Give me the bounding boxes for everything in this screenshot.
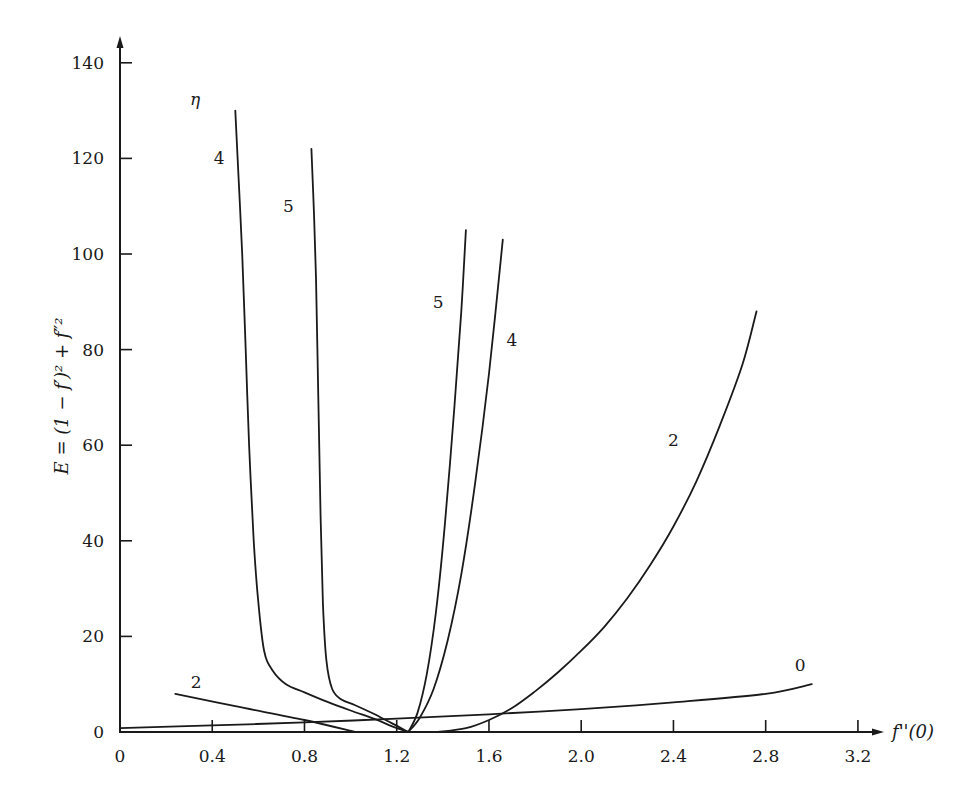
x-tick-label: 1.6 <box>475 746 502 766</box>
y-tick-label: 60 <box>82 435 104 455</box>
y-tick-label: 20 <box>82 626 104 646</box>
curves <box>120 111 812 732</box>
curve-eta-0 <box>120 684 812 728</box>
x-axis-title-text: f''(0) <box>890 721 934 742</box>
x-ticks: 00.40.81.21.62.02.42.83.2 <box>115 720 872 766</box>
y-axis-title: E = (1 − f′)² + f″² <box>51 318 72 476</box>
x-tick-label: 2.0 <box>568 746 595 766</box>
curve-labels: 0224554 <box>191 148 806 691</box>
axes <box>117 36 885 736</box>
curve-label-eta-2: 2 <box>668 430 679 450</box>
curve-label-eta-5: 5 <box>433 292 444 312</box>
x-tick-label: 0.8 <box>291 746 318 766</box>
y-tick-label: 0 <box>93 722 104 742</box>
x-tick-label: 0.4 <box>199 746 226 766</box>
y-ticks: 020406080100120140 <box>72 53 132 742</box>
curve-eta-5 <box>311 149 408 732</box>
curve-label-eta-4: 4 <box>214 148 225 168</box>
curve-label-eta-2: 2 <box>191 672 202 692</box>
y-tick-label: 140 <box>72 53 104 73</box>
x-tick-label: 1.2 <box>383 746 410 766</box>
x-tick-label: 3.2 <box>844 746 871 766</box>
x-tick-label: 2.4 <box>660 746 687 766</box>
curve-eta-4 <box>235 111 408 732</box>
curve-label-eta-5: 5 <box>283 196 294 216</box>
x-tick-label: 2.8 <box>752 746 779 766</box>
y-tick-label: 120 <box>72 148 104 168</box>
y-tick-label: 80 <box>82 340 104 360</box>
y-tick-label: 100 <box>72 244 104 264</box>
x-axis-arrow-icon <box>872 729 884 736</box>
curve-label-eta-4: 4 <box>507 330 518 350</box>
curve-eta-4 <box>408 240 503 732</box>
curve-label-eta-0: 0 <box>795 655 806 675</box>
x-tick-label: 0 <box>115 746 126 766</box>
chart-canvas: 00.40.81.21.62.02.42.83.2 02040608010012… <box>0 0 979 801</box>
y-tick-label: 40 <box>82 531 104 551</box>
y-axis-arrow-icon <box>117 36 124 48</box>
legend-title-eta: η <box>190 89 201 109</box>
curve-eta-2 <box>438 311 756 732</box>
x-axis-title: f''(0) <box>890 721 934 742</box>
